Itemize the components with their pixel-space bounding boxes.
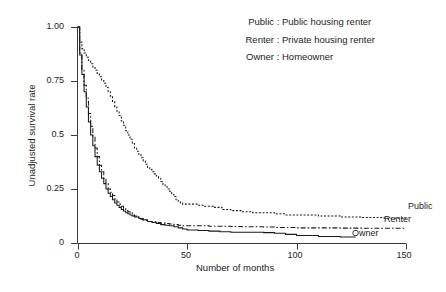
legend-row-public: Public:Public housing renter (232, 13, 375, 31)
legend-desc-public: Public housing renter (282, 13, 371, 31)
legend-colon-public: : (274, 13, 282, 31)
x-tick-label-3: 100 (280, 250, 310, 260)
legend-desc-renter: Private housing renter (282, 31, 375, 49)
plot-canvas (0, 0, 446, 292)
y-tick-marks (71, 28, 78, 244)
legend: Public:Public housing renter Renter:Priv… (232, 13, 375, 66)
legend-colon-renter: : (274, 31, 282, 49)
y-tick-label-4: 0.25 (32, 183, 64, 193)
curve-end-label-public: Public (408, 201, 433, 211)
legend-desc-owner: Homeowner (282, 48, 333, 66)
legend-key-owner: Owner (232, 48, 274, 66)
legend-key-renter: Renter (232, 31, 274, 49)
curve-end-label-renter: Renter (384, 214, 411, 224)
y-tick-label-5: 0 (32, 237, 64, 247)
legend-row-owner: Owner:Homeowner (232, 48, 375, 66)
y-tick-label-3: 0.5 (32, 129, 64, 139)
y-tick-label-1: 1.00 (32, 21, 64, 31)
survival-chart-figure: Public:Public housing renter Renter:Priv… (0, 0, 446, 292)
legend-colon-owner: : (274, 48, 282, 66)
x-tick-marks (79, 244, 407, 250)
y-tick-label-2: 0.75 (32, 75, 64, 85)
x-tick-label-4: 150 (389, 250, 419, 260)
legend-row-renter: Renter:Private housing renter (232, 31, 375, 49)
x-axis-title: Number of months (196, 262, 274, 273)
curve-end-label-owner: Owner (352, 228, 379, 238)
legend-key-public: Public (232, 13, 274, 31)
x-tick-label-1: 0 (62, 250, 92, 260)
x-tick-label-2: 50 (171, 250, 201, 260)
